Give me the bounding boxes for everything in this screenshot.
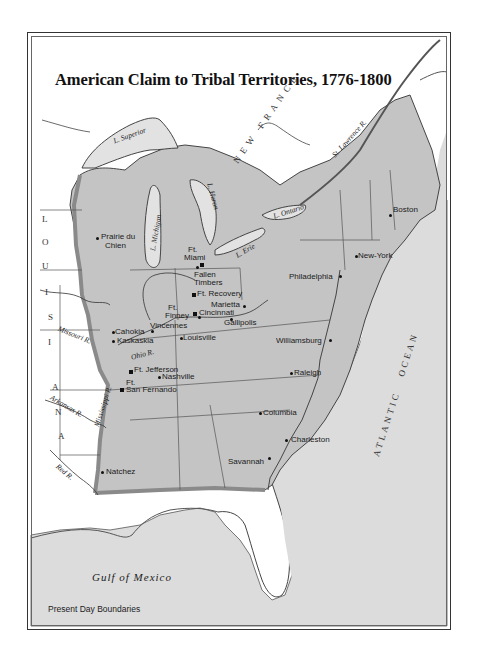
fort-marker [193, 312, 197, 316]
region-label-louisiana-2: O [42, 238, 53, 247]
city-marker [285, 439, 288, 442]
place-label-ft-finney-2: Finney [165, 311, 189, 320]
place-label-fallen-timbers-2: Timbers [194, 278, 223, 287]
region-label-louisiana-7: A [52, 383, 63, 392]
place-label-charleston: Charleston [291, 435, 330, 444]
city-marker [290, 372, 293, 375]
city-marker [389, 214, 392, 217]
place-label-philadelphia: Philadelphia [289, 272, 333, 281]
place-label-kaskaskia: Kaskaskia [117, 336, 153, 345]
place-label-marietta: Marietta [211, 300, 240, 309]
place-label-ft-san-fernando-2: San Fernando [126, 385, 177, 394]
map-frame-inner [31, 36, 447, 626]
region-label-gulf-of-mexico: Gulf of Mexico [92, 573, 172, 582]
city-marker [112, 340, 115, 343]
place-label-natchez: Natchez [106, 467, 135, 476]
place-label-raleigh: Raleigh [294, 368, 321, 377]
city-marker [329, 339, 332, 342]
city-marker [259, 412, 262, 415]
place-label-ft-miami-2: Miami [184, 253, 205, 262]
place-label-prairie-du-chien-1: Prairie du [101, 232, 135, 241]
legend-present-day-boundaries: Present Day Boundaries [48, 604, 140, 614]
city-marker [158, 376, 161, 379]
place-label-vincennes: Vincennes [150, 321, 187, 330]
region-label-louisiana-3: U [42, 262, 53, 271]
place-label-new-york: New-York [358, 251, 392, 260]
place-label-savannah: Savannah [228, 457, 264, 466]
city-marker [243, 305, 246, 308]
fort-marker [129, 370, 133, 374]
place-label-williamsburg: Williamsburg [276, 336, 322, 345]
city-marker [101, 471, 104, 474]
fort-marker [192, 293, 196, 297]
place-label-cincinnati: Cincinnati [199, 308, 234, 317]
place-label-ft-recovery: Ft. Recovery [197, 289, 242, 298]
city-marker [339, 275, 342, 278]
place-label-louisville: Louisville [183, 333, 216, 342]
region-label-louisiana-6: I [48, 338, 55, 347]
place-label-gallipolis: Gallipolis [224, 318, 256, 327]
region-label-louisiana-4: I [45, 288, 52, 297]
battle-marker [196, 266, 199, 269]
place-label-nashville: Nashville [162, 372, 194, 381]
map-title: American Claim to Tribal Territories, 17… [55, 70, 392, 90]
place-label-cahokia: Cahokia [115, 327, 144, 336]
fort-marker [200, 263, 204, 267]
region-label-louisiana-9: A [58, 432, 69, 441]
place-label-boston: Boston [393, 205, 418, 214]
fort-marker [120, 388, 124, 392]
place-label-columbia: Columbia [263, 408, 297, 417]
region-label-louisiana-5: S [48, 313, 57, 322]
city-marker [151, 330, 154, 333]
city-marker [268, 457, 271, 460]
city-marker [96, 237, 99, 240]
map: American Claim to Tribal Territories, 17… [0, 0, 479, 667]
place-label-prairie-du-chien-2: Chien [105, 241, 126, 250]
region-label-louisiana-1: L [42, 215, 52, 224]
